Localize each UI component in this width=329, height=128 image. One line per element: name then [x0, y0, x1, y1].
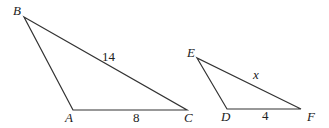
vertex-label-f: F	[306, 109, 316, 124]
triangle-edf: E D F x 4	[186, 45, 316, 124]
triangle-edf-outline	[197, 58, 301, 109]
side-label-df: 4	[262, 108, 269, 123]
vertex-label-d: D	[220, 109, 231, 124]
side-label-ac: 8	[133, 110, 140, 125]
vertex-label-b: B	[13, 3, 21, 18]
side-label-bc: 14	[102, 49, 116, 64]
side-label-ef: x	[252, 67, 259, 82]
triangle-abc: A B C 14 8	[13, 3, 193, 125]
vertex-label-e: E	[186, 45, 195, 60]
vertex-label-c: C	[184, 110, 193, 125]
similar-triangles-diagram: A B C 14 8 E D F x 4	[0, 0, 329, 128]
vertex-label-a: A	[64, 110, 73, 125]
